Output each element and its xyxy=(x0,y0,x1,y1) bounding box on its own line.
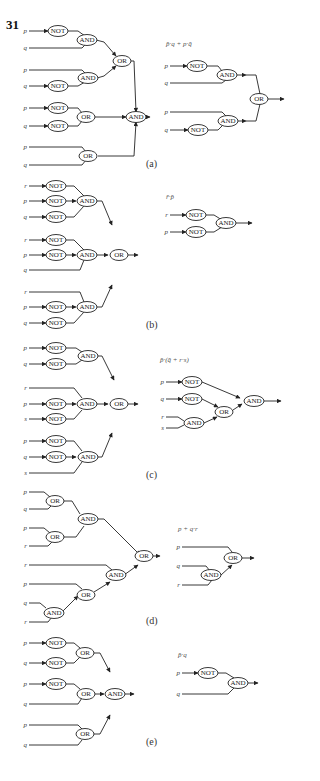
svg-text:NOT: NOT xyxy=(189,228,204,236)
input-label: r xyxy=(24,384,27,392)
simplified-expression: p̄·q xyxy=(177,651,187,659)
part-label-d: (d) xyxy=(146,615,158,627)
input-label: p xyxy=(23,303,28,311)
svg-text:AND: AND xyxy=(80,515,95,523)
svg-text:OR: OR xyxy=(254,95,264,103)
svg-text:AND: AND xyxy=(107,690,122,698)
input-label: r xyxy=(24,236,27,244)
input-label: s xyxy=(24,469,27,477)
input-label: p xyxy=(23,251,28,259)
input-label: p xyxy=(23,344,28,352)
part-label-a: (a) xyxy=(146,158,157,170)
and-gate: AND xyxy=(218,116,238,127)
and-gate: AND xyxy=(77,302,97,313)
input-label: q xyxy=(24,122,28,130)
and-gate: AND xyxy=(78,351,98,362)
svg-text:NOT: NOT xyxy=(190,62,205,70)
svg-text:AND: AND xyxy=(79,36,94,44)
and-gate: AND xyxy=(44,608,64,619)
or-gate: OR xyxy=(110,399,128,410)
not-gate: NOT xyxy=(46,399,66,410)
part-label-b: (b) xyxy=(146,319,158,331)
svg-text:OR: OR xyxy=(83,152,93,160)
svg-text:OR: OR xyxy=(50,533,60,541)
input-label: p xyxy=(164,228,169,236)
and-gate: AND xyxy=(77,35,97,46)
circuit-b-simplified: r̄·p̄ r p NOT NOT AND xyxy=(164,193,253,238)
svg-text:NOT: NOT xyxy=(49,437,64,445)
input-label: p xyxy=(164,108,169,116)
input-label: p xyxy=(23,197,28,205)
svg-text:NOT: NOT xyxy=(49,197,64,205)
not-gate: NOT xyxy=(48,26,68,37)
and-gate: AND xyxy=(105,689,125,700)
svg-text:OR: OR xyxy=(81,113,91,121)
not-gate: NOT xyxy=(48,81,68,92)
not-gate: NOT xyxy=(182,394,202,405)
svg-text:AND: AND xyxy=(219,71,234,79)
circuit-b-original: r p q r p q r p q NOT NOT NOT AND NOT NO… xyxy=(23,181,139,329)
input-label: q xyxy=(24,360,28,368)
part-label-c: (c) xyxy=(146,469,157,481)
input-label: p xyxy=(23,104,28,112)
input-label: q xyxy=(24,44,28,52)
and-gate: AND xyxy=(77,250,97,261)
input-label: r xyxy=(24,561,27,569)
circuit-e-original: p q p q p q NOT NOT OR NOT OR AND OR xyxy=(23,638,135,750)
or-gate: OR xyxy=(46,496,64,507)
input-label: p xyxy=(23,143,28,151)
input-label: q xyxy=(165,79,169,87)
svg-text:AND: AND xyxy=(80,453,95,461)
circuit-d-simplified: p + q·r p q r OR AND xyxy=(176,525,255,589)
input-label: q xyxy=(24,700,28,708)
or-gate: OR xyxy=(76,648,94,659)
svg-text:NOT: NOT xyxy=(185,378,200,386)
circuit-d-original: p q p r r p q r OR AND OR AND OR AND OR xyxy=(23,488,161,626)
input-label: q xyxy=(24,319,28,327)
svg-text:AND: AND xyxy=(108,571,123,579)
input-label: p xyxy=(23,488,28,496)
or-gate: OR xyxy=(135,551,153,562)
not-gate: NOT xyxy=(182,377,202,388)
input-label: p xyxy=(23,400,28,408)
svg-text:OR: OR xyxy=(81,690,91,698)
svg-text:AND: AND xyxy=(186,419,201,427)
svg-text:NOT: NOT xyxy=(51,122,66,130)
svg-text:NOT: NOT xyxy=(191,126,206,134)
svg-text:NOT: NOT xyxy=(189,211,204,219)
svg-text:NOT: NOT xyxy=(49,659,64,667)
svg-text:NOT: NOT xyxy=(51,82,66,90)
not-gate: NOT xyxy=(186,210,206,221)
not-gate: NOT xyxy=(188,125,208,136)
input-label: q xyxy=(24,161,28,169)
svg-text:AND: AND xyxy=(79,251,94,259)
input-label: p xyxy=(23,721,28,729)
svg-text:AND: AND xyxy=(80,352,95,360)
input-label: p xyxy=(176,669,181,677)
not-gate: NOT xyxy=(46,452,66,463)
not-gate: NOT xyxy=(46,679,66,690)
circuit-a-simplified: p̄·q + p·q̄ p q p q NOT AND OR AND NOT xyxy=(164,40,285,136)
and-gate: AND xyxy=(244,396,264,407)
or-gate: OR xyxy=(110,250,128,261)
simplified-expression: p + q·r xyxy=(177,525,198,533)
not-gate: NOT xyxy=(186,227,206,238)
svg-text:AND: AND xyxy=(128,113,143,121)
not-gate: NOT xyxy=(46,359,66,370)
svg-text:NOT: NOT xyxy=(49,303,64,311)
svg-text:NOT: NOT xyxy=(49,453,64,461)
svg-text:NOT: NOT xyxy=(49,680,64,688)
not-gate: NOT xyxy=(46,436,66,447)
svg-text:AND: AND xyxy=(79,197,94,205)
or-gate: OR xyxy=(215,407,233,418)
and-gate: AND xyxy=(126,112,146,123)
input-label: p xyxy=(164,62,169,70)
not-gate: NOT xyxy=(46,638,66,649)
circuit-a-original: p q p q p q p q NOT AND OR AND NOT NOT O… xyxy=(23,26,151,170)
svg-text:AND: AND xyxy=(80,74,95,82)
input-label: q xyxy=(24,453,28,461)
not-gate: NOT xyxy=(46,343,66,354)
and-gate: AND xyxy=(77,196,97,207)
not-gate: NOT xyxy=(46,235,66,246)
or-gate: OR xyxy=(77,689,95,700)
